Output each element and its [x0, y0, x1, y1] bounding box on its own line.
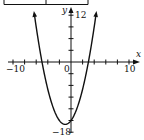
x-min-label: −10: [6, 65, 25, 74]
x-axis: [8, 60, 136, 65]
table-fragment: [4, 0, 88, 5]
y-axis-arrow-icon: [69, 7, 74, 13]
x-axis-label: x: [136, 50, 141, 59]
x-max-label: 10: [124, 65, 135, 74]
y-min-label: −18: [52, 128, 71, 137]
curve-arrow-left-icon: [32, 11, 37, 17]
origin-label: 0: [64, 65, 70, 74]
curve-arrow-right-icon: [93, 11, 98, 17]
y-axis-label: y: [62, 6, 67, 15]
y-max-label: 12: [75, 11, 86, 20]
